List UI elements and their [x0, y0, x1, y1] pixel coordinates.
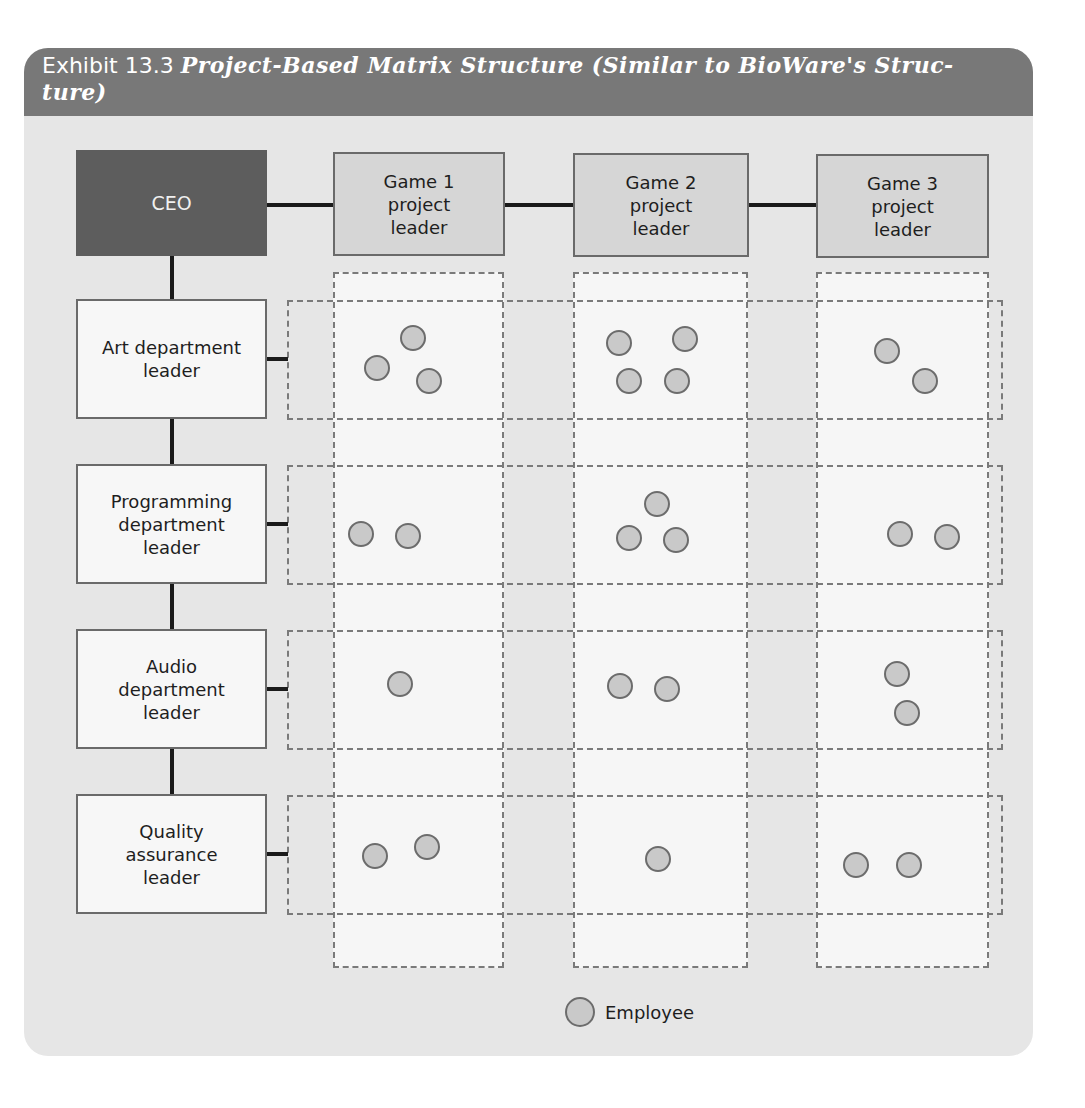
employee-icon [348, 521, 374, 547]
employee-icon [894, 700, 920, 726]
qa-row-connector [266, 852, 288, 856]
exhibit-title: Project-Based Matrix Structure (Similar … [42, 52, 954, 105]
qa-label-line1: Quality [125, 820, 217, 843]
audio-label-line3: leader [118, 701, 225, 724]
game2-leader-box: Game 2 project leader [573, 153, 749, 257]
employee-icon [912, 368, 938, 394]
programming-label-line1: Programming [111, 490, 232, 513]
employee-icon [400, 325, 426, 351]
ceo-label: CEO [151, 192, 191, 215]
employee-legend-icon [565, 997, 595, 1027]
programming-label-line3: leader [111, 536, 232, 559]
programming-label-line2: department [111, 513, 232, 536]
employee-icon [607, 673, 633, 699]
employee-icon [663, 527, 689, 553]
employee-icon [664, 368, 690, 394]
game3-label-line1: Game 3 [867, 172, 938, 195]
employee-icon [387, 671, 413, 697]
employee-icon [887, 521, 913, 547]
employee-icon [616, 525, 642, 551]
employee-icon [672, 326, 698, 352]
audio-row-connector [266, 687, 288, 691]
employee-icon [362, 843, 388, 869]
ceo-game1-connector [266, 203, 334, 207]
art-leader-box: Art department leader [76, 299, 267, 419]
game1-leader-box: Game 1 project leader [333, 152, 505, 256]
game1-label-line2: project [384, 193, 455, 216]
employee-icon [416, 368, 442, 394]
ceo-box: CEO [76, 150, 267, 256]
employee-icon [364, 355, 390, 381]
employee-icon [896, 852, 922, 878]
employee-icon [645, 846, 671, 872]
programming-leader-box: Programming department leader [76, 464, 267, 584]
game2-label-line2: project [626, 194, 697, 217]
game3-label-line2: project [867, 195, 938, 218]
employee-icon [843, 852, 869, 878]
programming-row-connector [266, 522, 288, 526]
audio-label-line2: department [118, 678, 225, 701]
game1-label-line3: leader [384, 216, 455, 239]
exhibit-header: Exhibit 13.3 Project-Based Matrix Struct… [24, 48, 1033, 116]
employee-icon [395, 523, 421, 549]
employee-icon [644, 491, 670, 517]
game2-label-line3: leader [626, 217, 697, 240]
audio-leader-box: Audio department leader [76, 629, 267, 749]
qa-leader-box: Quality assurance leader [76, 794, 267, 914]
employee-icon [616, 368, 642, 394]
art-label-line1: Art department [102, 336, 241, 359]
legend-label: Employee [605, 1002, 694, 1023]
game3-label-line3: leader [867, 218, 938, 241]
audio-label-line1: Audio [118, 655, 225, 678]
game1-label-line1: Game 1 [384, 170, 455, 193]
employee-icon [874, 338, 900, 364]
art-label-line2: leader [102, 359, 241, 382]
employee-icon [414, 834, 440, 860]
game3-leader-box: Game 3 project leader [816, 154, 989, 258]
qa-label-line3: leader [125, 866, 217, 889]
art-row-connector [266, 357, 288, 361]
employee-icon [934, 524, 960, 550]
game2-label-line1: Game 2 [626, 171, 697, 194]
exhibit-number: Exhibit 13.3 [42, 53, 174, 78]
legend: Employee [565, 997, 694, 1027]
employee-icon [884, 661, 910, 687]
employee-icon [654, 676, 680, 702]
game2-game3-connector [748, 203, 817, 207]
qa-label-line2: assurance [125, 843, 217, 866]
employee-icon [606, 330, 632, 356]
game1-game2-connector [504, 203, 574, 207]
